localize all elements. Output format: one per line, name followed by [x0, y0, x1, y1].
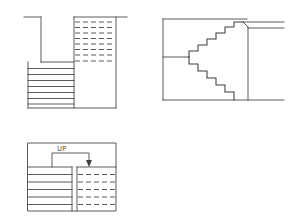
section-lower-flight: [189, 57, 234, 100]
up-label: UP: [57, 145, 66, 152]
upper-plan-solid-treads: [28, 69, 74, 105]
view-lower-plan: UP: [28, 143, 116, 211]
lower-plan-solid-treads: [28, 175, 72, 205]
lower-plan-direction-path: [52, 153, 92, 167]
up-direction-line: [52, 153, 89, 167]
drawing-sheet: UP: [0, 0, 290, 217]
section-upper-flight: [189, 22, 284, 57]
down-arrowhead-icon: [86, 160, 92, 167]
view-upper-plan: [24, 17, 127, 108]
view-section: [163, 19, 284, 100]
section-upper-steps: [189, 22, 243, 57]
section-upper-stringer: [243, 22, 248, 27]
drawing-canvas: UP: [0, 0, 290, 217]
lower-plan-dashed-treads: [78, 175, 115, 205]
section-lower-steps: [189, 57, 234, 100]
section-outline: [163, 19, 284, 100]
upper-plan-dashed-treads: [75, 22, 115, 61]
upper-plan-outline: [24, 17, 127, 108]
